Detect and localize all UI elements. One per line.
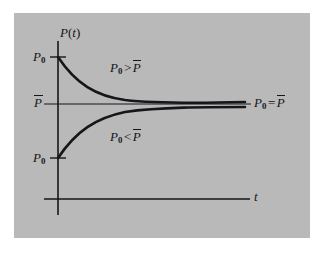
y-axis-label: P(t) <box>60 26 80 39</box>
annotation-equilibrium: P0=P <box>254 96 285 111</box>
figure-root: P(t) P0 P P0 P0>P P0<P P0=P t <box>0 0 324 253</box>
axis-label-p0-lower-subscript: 0 <box>41 156 45 166</box>
curve-p0-less-than-pbar <box>58 107 245 158</box>
annotation-upper-curve-operator: > <box>122 60 132 75</box>
axis-label-p0-upper: P0 <box>33 50 45 65</box>
plot-canvas <box>0 0 324 253</box>
y-axis-label-var: P <box>60 25 68 40</box>
x-axis-label: t <box>254 190 258 203</box>
annotation-upper-curve: P0>P <box>110 61 141 76</box>
annotation-lower-curve: P0<P <box>110 130 141 145</box>
curve-p0-greater-than-pbar <box>58 57 245 103</box>
annotation-equilibrium-operator: = <box>266 95 276 110</box>
annotation-lower-curve-operator: < <box>122 129 132 144</box>
axis-label-p0-upper-subscript: 0 <box>41 55 45 65</box>
axis-label-p-bar: P <box>34 96 42 109</box>
axis-label-p0-lower: P0 <box>33 151 45 166</box>
